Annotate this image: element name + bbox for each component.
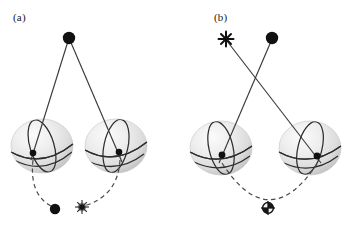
contact-dot-right-a	[116, 149, 123, 156]
image-point-dot-a	[50, 204, 60, 214]
sphere-right-a	[85, 117, 147, 175]
panel-label-a: (a)	[13, 11, 26, 23]
contact-dot-left-a	[30, 150, 37, 157]
figure-canvas: (a) (b)	[0, 0, 355, 225]
sphere-left-b	[190, 119, 252, 177]
contact-dot-left-b	[219, 152, 226, 159]
apex-star-b	[219, 32, 234, 47]
panel-a	[11, 32, 147, 214]
image-point-crosshair-b	[261, 201, 275, 215]
contact-dot-right-b	[314, 153, 321, 160]
apex-dot-b	[266, 32, 278, 44]
image-point-burst-a	[75, 200, 89, 214]
panel-b	[190, 32, 341, 216]
apex-dot-a	[63, 32, 75, 44]
panel-label-b: (b)	[214, 11, 227, 23]
diagram-svg	[0, 0, 355, 225]
